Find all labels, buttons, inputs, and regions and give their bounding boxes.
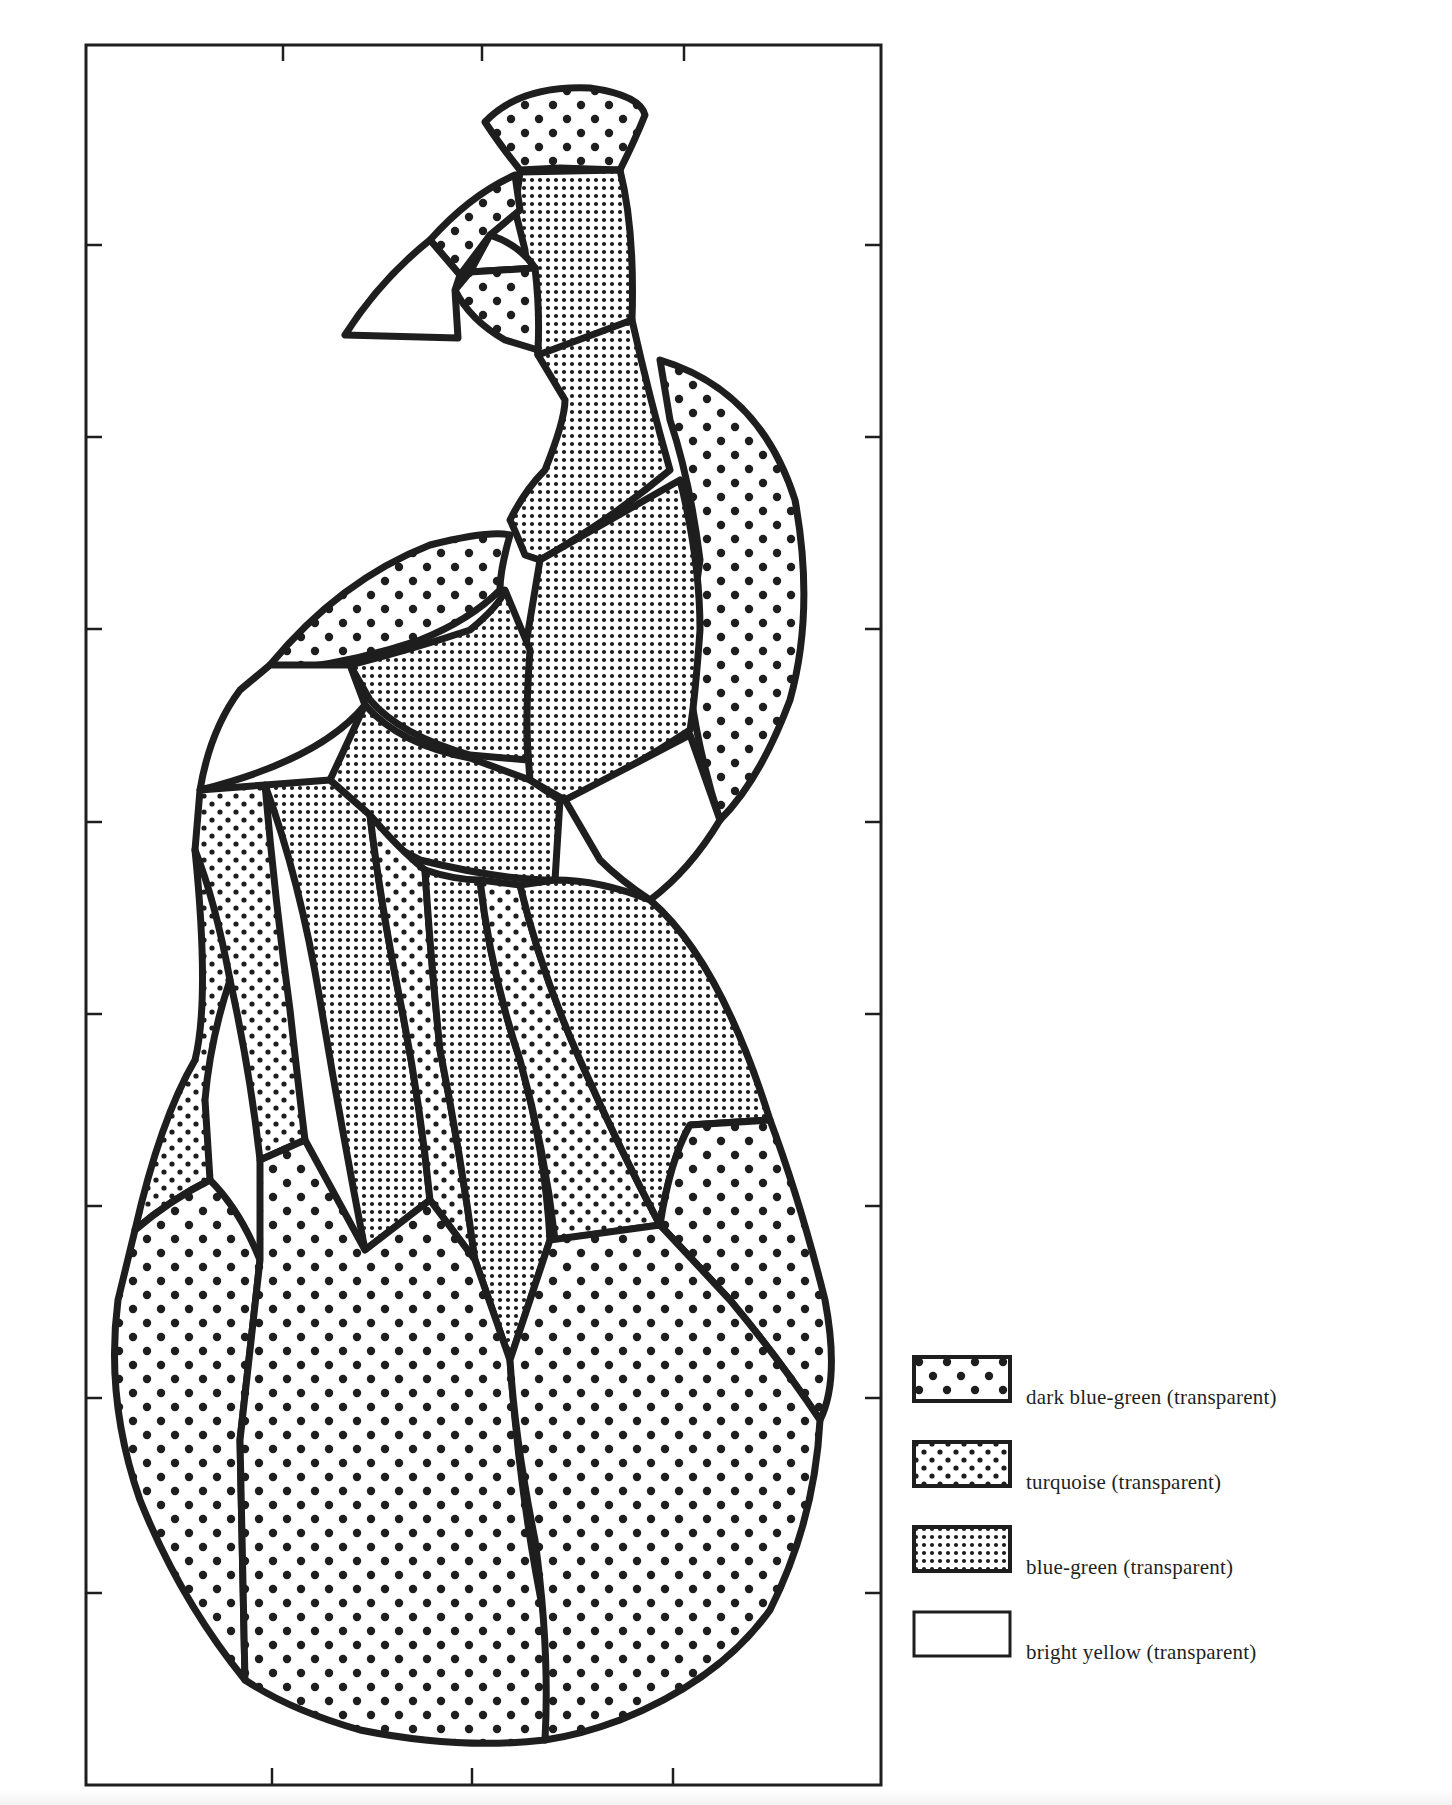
face-piece-lower bbox=[455, 268, 539, 350]
swatch-blank-icon bbox=[912, 1610, 1012, 1658]
legend-item-bright-yellow: bright yellow (transparent) bbox=[908, 1610, 1428, 1670]
beak-piece bbox=[345, 240, 460, 338]
legend-item-turquoise: turquoise (transparent) bbox=[908, 1440, 1428, 1500]
legend-label: blue-green (transparent) bbox=[1026, 1555, 1233, 1580]
legend-label: turquoise (transparent) bbox=[1026, 1470, 1221, 1495]
tail-left-strip bbox=[135, 850, 230, 1230]
swatch-large-dots-icon bbox=[912, 1355, 1012, 1403]
swatch-medium-dots-icon bbox=[912, 1440, 1012, 1488]
legend-item-dark-blue-green: dark blue-green (transparent) bbox=[908, 1355, 1428, 1415]
legend-item-blue-green: blue-green (transparent) bbox=[908, 1525, 1428, 1585]
legend-label: bright yellow (transparent) bbox=[1026, 1640, 1257, 1665]
peacock bbox=[114, 88, 831, 1744]
page-bottom-shade bbox=[0, 1789, 1452, 1805]
legend-label: dark blue-green (transparent) bbox=[1026, 1385, 1277, 1410]
crest-piece bbox=[485, 88, 645, 170]
swatch-fine-dots-icon bbox=[912, 1525, 1012, 1573]
